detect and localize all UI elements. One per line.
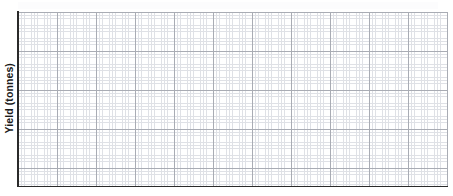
plot-area	[18, 12, 448, 186]
y-axis-label-container: Yield (tonnes)	[0, 0, 18, 196]
chart-figure: Yield (tonnes)	[0, 0, 453, 196]
scan-artifact-top	[18, 2, 438, 9]
x-axis-spine	[17, 186, 448, 188]
y-axis-label: Yield (tonnes)	[4, 63, 15, 133]
y-axis-spine	[17, 11, 19, 187]
